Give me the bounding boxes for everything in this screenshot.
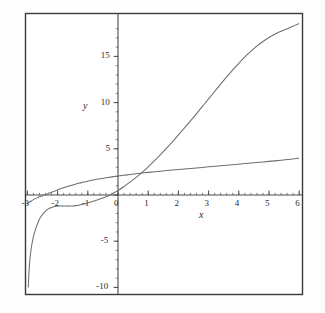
x-tick-label: -3: [21, 199, 29, 208]
x-tick-label: -2: [52, 199, 60, 208]
y-tick-label: 5: [105, 144, 110, 153]
y-axis-label: y: [83, 101, 87, 111]
x-tick-label: 1: [144, 199, 149, 208]
y-tick-label: 15: [101, 51, 110, 60]
x-tick-label: 0: [114, 199, 119, 208]
x-axis-label: x: [199, 210, 203, 220]
x-tick-label: -1: [82, 199, 90, 208]
y-tick-label: -10: [96, 282, 108, 291]
x-tick-label: 5: [265, 199, 270, 208]
plot-figure: -3-2-10123456 -10-551015 x y: [0, 0, 325, 313]
x-tick-label: 3: [205, 199, 210, 208]
plot-canvas: [0, 0, 325, 313]
y-tick-label: -5: [101, 236, 109, 245]
x-tick-label: 4: [235, 199, 240, 208]
y-tick-label: 10: [101, 98, 110, 107]
plot-frame: [26, 14, 303, 295]
x-tick-label: 6: [295, 199, 300, 208]
x-tick-label: 2: [174, 199, 179, 208]
